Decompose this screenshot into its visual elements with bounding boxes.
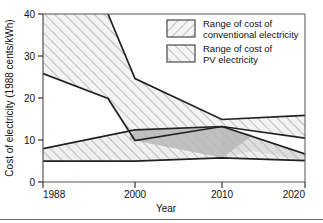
legend-label-pv-line1: Range of cost of [203,43,273,54]
y-tick-label-20: 20 [24,93,36,104]
legend-swatch-conventional [167,20,195,37]
legend: Range of cost of conventional electricit… [167,18,299,65]
y-tick-label-10: 10 [24,135,36,146]
x-tick-label-2020: 2020 [283,189,306,200]
y-tick-label-40: 40 [24,9,36,20]
x-axis-ticks [43,182,305,188]
figure-bottom-rule [0,219,323,220]
legend-label-conventional-line1: Range of cost of [203,18,273,29]
x-tick-label-2010: 2010 [211,189,234,200]
x-tick-label-2000: 2000 [124,189,147,200]
cost-of-electricity-chart: 0 10 20 30 40 1988 2000 2010 2020 Year C… [0,0,323,223]
x-tick-label-1988: 1988 [43,189,66,200]
legend-label-conventional-line2: conventional electricity [203,29,299,40]
y-tick-label-30: 30 [24,51,36,62]
y-axis-title: Cost of electricity (1988 cents/kWh) [4,19,15,176]
y-tick-label-0: 0 [29,177,35,188]
figure-container: 0 10 20 30 40 1988 2000 2010 2020 Year C… [0,0,323,223]
x-axis-title: Year [156,203,177,214]
legend-swatch-pv [167,45,195,62]
legend-label-pv-line2: PV electricity [203,54,258,65]
y-axis-ticks [38,14,43,182]
